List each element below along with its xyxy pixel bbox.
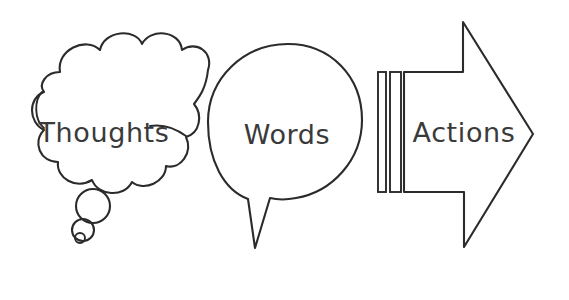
diagram-svg: Thoughts Words Actions [0,0,569,300]
node-label-words: Words [244,119,330,150]
node-label-actions: Actions [413,117,516,148]
thought-bubble-large [76,189,110,223]
diagram-canvas: Thoughts Words Actions [0,0,569,300]
node-words[interactable]: Words [208,44,362,248]
arrow-stripe-2 [390,72,401,192]
node-actions[interactable]: Actions [378,22,533,247]
thought-cloud-icon [32,33,209,193]
node-thoughts[interactable]: Thoughts [32,33,209,243]
node-label-thoughts: Thoughts [38,117,170,148]
arrow-stripe-1 [378,72,386,192]
